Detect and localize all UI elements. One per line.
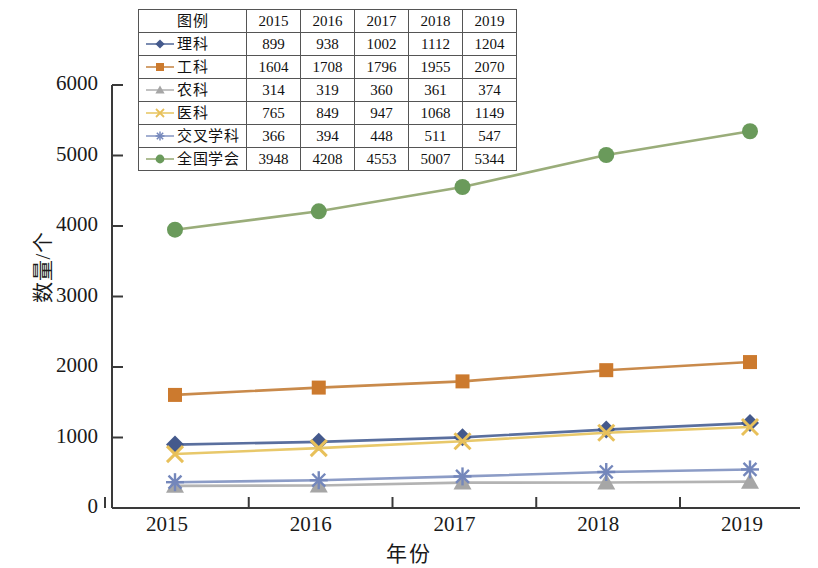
table-cell: 366 [247,125,301,148]
table-cell: 5344 [463,148,517,171]
table-cell: 374 [463,79,517,102]
legend-marker-icon [145,152,175,166]
year-header-2018: 2018 [409,10,463,33]
series-lines [166,123,759,493]
year-header-2016: 2016 [301,10,355,33]
x-tick-label-2017: 2017 [405,512,505,537]
x-tick-label-2019: 2019 [692,512,792,537]
table-cell: 511 [409,125,463,148]
y-tick-label-4000: 4000 [0,212,98,237]
legend-series-label: 工科 [177,56,208,78]
legend-cell-1: 工科 [139,56,247,79]
table-row: 全国学会39484208455350075344 [139,148,517,171]
legend-data-table: 图例 2015 2016 2017 2018 2019 理科8999381002… [138,9,516,171]
legend-marker-icon [145,37,175,51]
table-row: 工科16041708179619552070 [139,56,517,79]
legend-marker-icon [145,83,175,97]
table-cell: 1204 [463,33,517,56]
table-cell: 394 [301,125,355,148]
x-axis-title: 年份 [0,537,818,567]
table-cell: 1604 [247,56,301,79]
table-cell: 947 [355,102,409,125]
legend-series-label: 交叉学科 [177,125,239,147]
y-tick-label-0: 0 [0,494,98,519]
table-cell: 1112 [409,33,463,56]
table-cell: 938 [301,33,355,56]
legend-table: 图例 2015 2016 2017 2018 2019 理科8999381002… [138,9,517,171]
table-cell: 849 [301,102,355,125]
table-cell: 1149 [463,102,517,125]
legend-table-body: 理科899938100211121204工科160417081796195520… [139,33,517,171]
x-tick-label-2018: 2018 [548,512,648,537]
table-cell: 1002 [355,33,409,56]
legend-series-label: 农科 [177,79,208,101]
table-cell: 3948 [247,148,301,171]
legend-marker-icon [145,106,175,120]
legend-cell-0: 理科 [139,33,247,56]
table-row: 交叉学科366394448511547 [139,125,517,148]
legend-marker-icon [145,60,175,74]
table-cell: 5007 [409,148,463,171]
legend-series-label: 医科 [177,102,208,124]
legend-cell-4: 交叉学科 [139,125,247,148]
table-cell: 314 [247,79,301,102]
y-tick-label-2000: 2000 [0,353,98,378]
table-cell: 4208 [301,148,355,171]
legend-series-label: 全国学会 [177,148,239,170]
table-cell: 1955 [409,56,463,79]
year-header-2017: 2017 [355,10,409,33]
chart-figure: 数量/个 年份 0100020003000400050006000 201520… [0,0,818,568]
table-row: 医科76584994710681149 [139,102,517,125]
table-row: 理科899938100211121204 [139,33,517,56]
table-cell: 899 [247,33,301,56]
x-tick-label-2015: 2015 [117,512,217,537]
year-header-2019: 2019 [463,10,517,33]
table-cell: 1708 [301,56,355,79]
year-header-2015: 2015 [247,10,301,33]
y-tick-label-1000: 1000 [0,424,98,449]
legend-cell-3: 医科 [139,102,247,125]
table-row: 农科314319360361374 [139,79,517,102]
legend-header-cell: 图例 [139,10,247,33]
legend-series-label: 理科 [177,33,208,55]
table-cell: 547 [463,125,517,148]
table-cell: 1796 [355,56,409,79]
legend-cell-5: 全国学会 [139,148,247,171]
table-cell: 360 [355,79,409,102]
table-cell: 4553 [355,148,409,171]
table-cell: 319 [301,79,355,102]
series-0 [166,414,759,454]
legend-marker-icon [145,129,175,143]
table-cell: 361 [409,79,463,102]
table-header-row: 图例 2015 2016 2017 2018 2019 [139,10,517,33]
table-cell: 1068 [409,102,463,125]
y-tick-label-5000: 5000 [0,142,98,167]
table-cell: 765 [247,102,301,125]
series-1 [168,355,757,402]
legend-cell-2: 农科 [139,79,247,102]
table-cell: 2070 [463,56,517,79]
table-cell: 448 [355,125,409,148]
legend-header-label: 图例 [177,10,208,32]
y-tick-label-6000: 6000 [0,71,98,96]
y-tick-label-3000: 3000 [0,283,98,308]
x-tick-label-2016: 2016 [261,512,361,537]
